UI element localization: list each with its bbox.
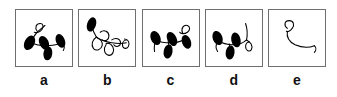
panel-e xyxy=(268,9,326,67)
panel-a xyxy=(15,9,73,67)
panel-label-a: a xyxy=(15,70,73,90)
panel-c xyxy=(142,9,200,67)
panel-d xyxy=(205,9,263,67)
label-row: a b c d e xyxy=(15,70,326,90)
panel-label-b: b xyxy=(78,70,136,90)
panel-b xyxy=(78,9,136,67)
panel-b-drawing xyxy=(79,10,135,66)
panel-row xyxy=(15,9,326,69)
panel-label-e: e xyxy=(268,70,326,90)
panel-e-drawing xyxy=(269,10,325,66)
figure-container: a b c d e xyxy=(0,0,337,97)
panel-a-drawing xyxy=(16,10,72,66)
panel-d-drawing xyxy=(206,10,262,66)
panel-label-c: c xyxy=(142,70,200,90)
panel-c-drawing xyxy=(143,10,199,66)
panel-label-d: d xyxy=(205,70,263,90)
